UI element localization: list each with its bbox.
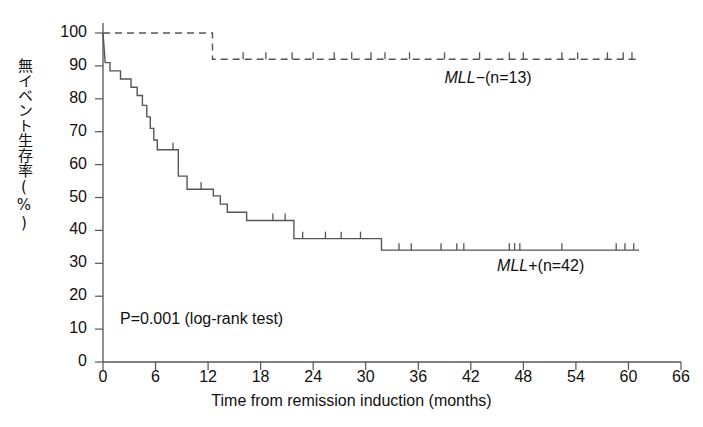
y-tick-label: 80 (47, 89, 87, 107)
y-tick-label: 20 (47, 286, 87, 304)
x-tick-label: 6 (136, 368, 176, 386)
y-tick-label: 30 (47, 253, 87, 271)
x-tick-label: 0 (83, 368, 123, 386)
series-label-mll-negative: MLL−(n=13) (445, 69, 532, 87)
x-axis-title: Time from remission induction (months) (0, 392, 703, 410)
x-tick-label: 48 (503, 368, 543, 386)
pvalue-annotation: P=0.001 (log-rank test) (120, 310, 283, 328)
y-tick-label: 70 (47, 122, 87, 140)
y-tick-label: 0 (47, 352, 87, 370)
x-tick-label: 54 (556, 368, 596, 386)
x-tick-label: 24 (293, 368, 333, 386)
x-tick-label: 30 (346, 368, 386, 386)
y-tick-label: 60 (47, 155, 87, 173)
y-tick-label: 40 (47, 220, 87, 238)
y-tick-label: 10 (47, 319, 87, 337)
kaplan-meier-chart: 無イベント生存率(%) Time from remission inductio… (0, 0, 703, 427)
mll-neg-detail: −(n=13) (476, 69, 532, 86)
x-tick-label: 42 (451, 368, 491, 386)
x-tick-label: 66 (661, 368, 701, 386)
x-tick-label: 60 (608, 368, 648, 386)
survival-curve-mll-negative (103, 33, 637, 59)
x-tick-label: 18 (241, 368, 281, 386)
survival-curve-mll-positive (103, 33, 639, 250)
series-label-mll-positive: MLL+(n=42) (497, 257, 584, 275)
y-tick-label: 100 (47, 23, 87, 41)
mll-pos-detail: +(n=42) (528, 257, 584, 274)
mll-neg-gene-name: MLL (445, 69, 476, 86)
y-tick-label: 90 (47, 56, 87, 74)
y-axis-title: 無イベント生存率(%) (6, 58, 32, 232)
mll-pos-gene-name: MLL (497, 257, 528, 274)
y-tick-label: 50 (47, 188, 87, 206)
x-tick-label: 12 (188, 368, 228, 386)
data-series (103, 33, 639, 250)
plot-area (0, 0, 703, 427)
x-tick-label: 36 (398, 368, 438, 386)
